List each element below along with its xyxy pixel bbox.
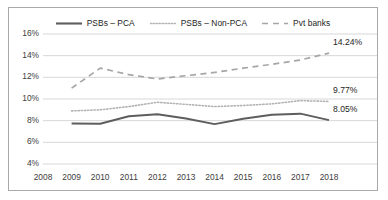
x-tick-label: 2012	[141, 172, 173, 182]
legend-item-psbs-non-pca[interactable]: PSBs – Non-PCA	[150, 18, 247, 28]
x-tick-label: 2009	[56, 172, 88, 182]
data-label-psbs-pca: 8.05%	[333, 104, 357, 114]
x-tick-label: 2018	[313, 172, 345, 182]
y-tick-label: 8%	[9, 115, 39, 125]
y-tick-label: 16%	[9, 28, 39, 38]
legend-item-pvt-banks[interactable]: Pvt banks	[262, 18, 330, 28]
y-tick-label: 14%	[9, 50, 39, 60]
legend-swatch-dashed-icon	[262, 19, 288, 28]
x-tick-label: 2010	[84, 172, 116, 182]
x-tick-label: 2013	[170, 172, 202, 182]
series-line-1	[72, 101, 329, 111]
y-tick-label: 6%	[9, 136, 39, 146]
y-tick-label: 10%	[9, 93, 39, 103]
x-tick-label: 2016	[256, 172, 288, 182]
chart-plot-area: PSBs – PCA PSBs – Non-PCA Pvt banks 4%6%…	[9, 8, 377, 190]
legend-swatch-solid-icon	[56, 19, 82, 28]
x-tick-label: 2011	[113, 172, 145, 182]
x-tick-label: 2017	[284, 172, 316, 182]
line-chart-canvas	[9, 8, 377, 190]
legend-label-psbs-non-pca: PSBs – Non-PCA	[181, 18, 247, 28]
legend-label-psbs-pca: PSBs – PCA	[87, 18, 135, 28]
series-line-2	[72, 53, 329, 88]
legend-item-psbs-pca[interactable]: PSBs – PCA	[56, 18, 135, 28]
legend-swatch-dotted-icon	[150, 19, 176, 28]
chart-frame: PSBs – PCA PSBs – Non-PCA Pvt banks 4%6%…	[8, 7, 378, 191]
data-label-psbs-non-pca: 9.77%	[333, 85, 357, 95]
x-tick-label: 2015	[227, 172, 259, 182]
chart-legend: PSBs – PCA PSBs – Non-PCA Pvt banks	[9, 15, 377, 31]
series-line-0	[72, 114, 329, 125]
y-tick-label: 4%	[9, 158, 39, 168]
y-tick-label: 12%	[9, 71, 39, 81]
legend-label-pvt-banks: Pvt banks	[293, 18, 330, 28]
x-tick-label: 2014	[199, 172, 231, 182]
x-tick-label: 2008	[27, 172, 59, 182]
data-label-pvt-banks: 14.24%	[333, 37, 362, 47]
